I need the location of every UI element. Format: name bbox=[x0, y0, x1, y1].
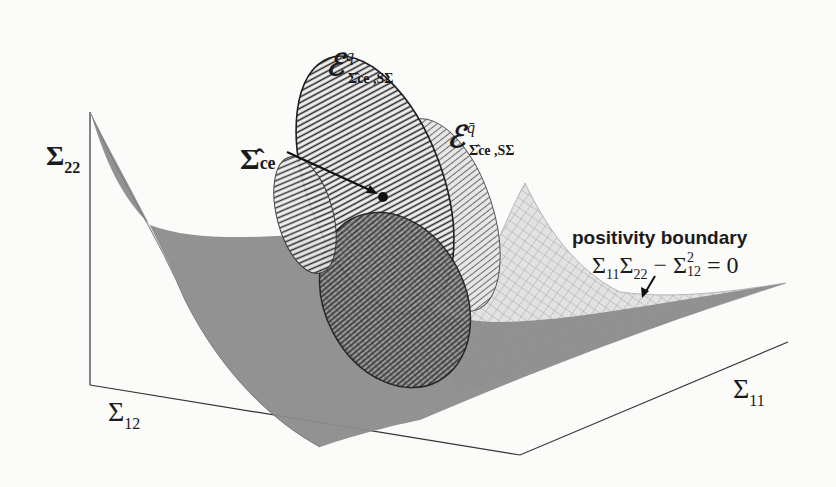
eq-sup: 2 bbox=[687, 251, 701, 265]
superscript: q̄ bbox=[467, 119, 475, 136]
eq-term: Σ bbox=[592, 252, 606, 278]
script-e: ℰ bbox=[447, 119, 465, 154]
label-positivity-boundary: positivity boundary bbox=[572, 228, 747, 247]
script-e: ℰ bbox=[326, 47, 344, 82]
eq-sub: 11 bbox=[606, 267, 619, 282]
boundary-equation: Σ11Σ22 − Σ212 = 0 bbox=[592, 253, 738, 279]
axis-label-sigma12: Σ12 bbox=[108, 398, 140, 432]
axis-symbol: Σ bbox=[108, 396, 124, 427]
subscript: Σ̂ce ,SΣ bbox=[469, 143, 515, 158]
center-point bbox=[378, 192, 388, 202]
axis-label-sigma11: Σ11 bbox=[733, 375, 765, 409]
eq-minus: − bbox=[647, 252, 673, 278]
sigma-hat: Σ̂ bbox=[240, 142, 260, 175]
eq-sub: 12 bbox=[687, 265, 701, 279]
eq-rhs: = 0 bbox=[701, 252, 739, 278]
eq-term: Σ bbox=[673, 252, 687, 278]
axis-subscript: 11 bbox=[749, 392, 764, 409]
label-center-sigma-ce: Σ̂ce bbox=[240, 144, 276, 174]
label-ellipsoid-qbar: ℰq̄ Σ̂ce ,SΣ bbox=[447, 122, 515, 168]
axis-subscript: 22 bbox=[64, 159, 80, 176]
axis-label-sigma22: Σ22 bbox=[46, 142, 80, 176]
axis-subscript: 12 bbox=[124, 415, 140, 432]
axis-symbol: Σ bbox=[733, 373, 749, 404]
axis-symbol: Σ bbox=[46, 140, 64, 171]
label-ellipsoid-q: ℰq Σ̂ce ,SΣ bbox=[326, 50, 394, 96]
subscript: ce bbox=[260, 153, 276, 173]
eq-supsub: 212 bbox=[687, 251, 701, 279]
superscript: q bbox=[346, 47, 354, 64]
eq-sub: 22 bbox=[633, 267, 647, 282]
subscript: Σ̂ce ,SΣ bbox=[348, 71, 394, 86]
eq-term: Σ bbox=[619, 252, 633, 278]
figure: Σ22 Σ12 Σ11 ℰq Σ̂ce ,SΣ ℰq̄ Σ̂ce ,SΣ Σ̂c… bbox=[0, 0, 836, 487]
